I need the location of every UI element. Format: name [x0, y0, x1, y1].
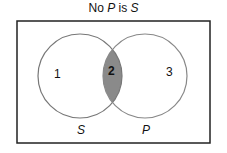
- circle-label-s: S: [77, 123, 85, 137]
- region-label-2: 2: [108, 64, 115, 78]
- region-label-3: 3: [166, 65, 173, 79]
- venn-diagram: 1 2 3 S P: [0, 0, 227, 153]
- region-label-1: 1: [54, 67, 61, 81]
- circle-label-p: P: [142, 123, 150, 137]
